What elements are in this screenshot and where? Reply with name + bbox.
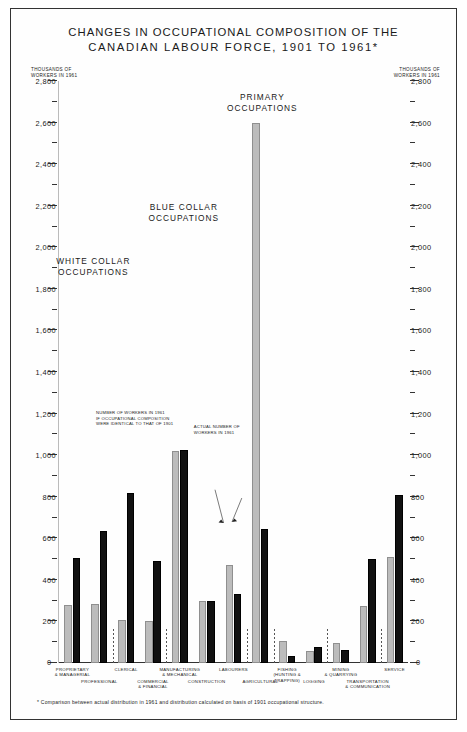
group-divider-after-9 xyxy=(327,629,328,663)
bar-estimated-4 xyxy=(172,451,180,663)
axis-tick-label-left-600: 600 xyxy=(16,534,56,543)
axis-tick-left-1100 xyxy=(52,433,57,434)
axis-tick-label-left-1000: 1,000 xyxy=(16,451,56,460)
category-label-10: MINING& QUARRYING xyxy=(315,667,367,678)
axis-tick-label-right-1200: 1,200 xyxy=(411,410,451,419)
bar-estimated-10 xyxy=(333,643,341,663)
axis-tick-label-right-1600: 1,600 xyxy=(411,326,451,335)
axis-tick-label-right-2800: 2,800 xyxy=(411,77,451,86)
bar-actual-3 xyxy=(153,561,161,663)
axis-tick-left-1700 xyxy=(52,309,57,310)
axis-tick-label-right-1400: 1,400 xyxy=(411,368,451,377)
bar-actual-0 xyxy=(73,558,81,663)
footnote: * Comparison between actual distribution… xyxy=(37,699,324,705)
axis-tick-label-left-2400: 2,400 xyxy=(16,160,56,169)
axis-tick-right-2300 xyxy=(410,184,415,185)
leader-line-estimated xyxy=(215,490,224,523)
chart-title-line-1: CHANGES IN OCCUPATIONAL COMPOSITION OF T… xyxy=(11,25,456,40)
leader-arrow-actual xyxy=(232,519,237,522)
axis-tick-right-2700 xyxy=(410,101,415,102)
axis-tick-left-900 xyxy=(52,475,57,476)
bar-estimated-8 xyxy=(279,641,287,663)
axis-tick-left-1500 xyxy=(52,350,57,351)
axis-tick-left-500 xyxy=(52,558,57,559)
axis-tick-right-1100 xyxy=(410,433,415,434)
axis-tick-label-right-800: 800 xyxy=(411,493,451,502)
bar-actual-11 xyxy=(368,559,376,663)
axis-tick-right-500 xyxy=(410,558,415,559)
chart-title: CHANGES IN OCCUPATIONAL COMPOSITION OF T… xyxy=(11,25,456,55)
section-label-blue-collar: BLUE COLLAR OCCUPATIONS xyxy=(141,202,227,224)
bar-actual-4 xyxy=(180,450,188,663)
section-label-white-collar-line-2: OCCUPATIONS xyxy=(50,267,136,278)
bar-estimated-3 xyxy=(145,621,153,663)
axis-tick-left-1300 xyxy=(52,392,57,393)
category-label-2: CLERICAL xyxy=(100,667,152,672)
bar-actual-8 xyxy=(288,656,296,663)
bar-estimated-11 xyxy=(360,606,368,663)
bar-estimated-0 xyxy=(64,605,72,663)
plot-area: 2002004004006006008008001,0001,0001,2001… xyxy=(59,81,408,663)
bar-estimated-1 xyxy=(91,604,99,663)
axis-tick-right-300 xyxy=(410,600,415,601)
bar-estimated-5 xyxy=(199,601,207,663)
axis-tick-right-100 xyxy=(410,641,415,642)
group-divider-after-3 xyxy=(166,629,167,663)
category-label-0: PROPRIETARY& MANAGERIAL xyxy=(46,667,98,678)
leader-line-actual xyxy=(232,498,242,522)
bar-actual-12 xyxy=(395,495,403,663)
callout-estimated-series: NUMBER OF WORKERS IN 1961 IF OCCUPATIONA… xyxy=(96,410,200,426)
axis-tick-left-700 xyxy=(52,517,57,518)
axis-tick-label-right-2400: 2,400 xyxy=(411,160,451,169)
axis-tick-right-1300 xyxy=(410,392,415,393)
axis-tick-label-right-2200: 2,200 xyxy=(411,202,451,211)
group-divider-after-11 xyxy=(381,629,382,663)
category-label-9: LOGGING xyxy=(288,679,340,684)
axis-tick-label-left-1600: 1,600 xyxy=(16,326,56,335)
callout-actual-series: ACTUAL NUMBER OF WORKERS IN 1961 xyxy=(194,424,268,435)
axis-tick-right-2100 xyxy=(410,226,415,227)
axis-tick-label-right-400: 400 xyxy=(411,576,451,585)
axis-tick-label-right-2600: 2,600 xyxy=(411,119,451,128)
bar-estimated-7 xyxy=(252,123,260,663)
axis-tick-label-left-800: 800 xyxy=(16,493,56,502)
axis-tick-right-1500 xyxy=(410,350,415,351)
section-label-primary-line-2: OCCUPATIONS xyxy=(225,103,299,114)
callout-estimated-line-3: WERE IDENTICAL TO THAT OF 1901 xyxy=(96,421,200,426)
category-label-12: SERVICE xyxy=(369,667,421,672)
axis-tick-label-left-2000: 2,000 xyxy=(16,243,56,252)
axis-tick-label-left-1400: 1,400 xyxy=(16,368,56,377)
axis-tick-left-2100 xyxy=(52,226,57,227)
bar-actual-5 xyxy=(207,601,215,663)
leader-arrow-estimated xyxy=(219,520,224,523)
axis-tick-label-left-400: 400 xyxy=(16,576,56,585)
bar-actual-7 xyxy=(261,529,269,663)
axis-tick-left-300 xyxy=(52,600,57,601)
axis-tick-right-1900 xyxy=(410,267,415,268)
axis-tick-left-100 xyxy=(52,641,57,642)
zero-label-left: 0 xyxy=(47,658,51,667)
axis-tick-right-1700 xyxy=(410,309,415,310)
section-label-white-collar-line-1: WHITE COLLAR xyxy=(50,256,136,267)
category-label-5: CONSTRUCTION xyxy=(181,679,233,684)
bar-estimated-9 xyxy=(306,651,314,663)
axis-tick-label-right-2000: 2,000 xyxy=(411,243,451,252)
bar-actual-2 xyxy=(127,493,135,663)
axis-tick-label-right-1800: 1,800 xyxy=(411,285,451,294)
category-label-1: PROFESSIONAL xyxy=(73,679,125,684)
chart-title-line-2: CANADIAN LABOUR FORCE, 1901 TO 1961* xyxy=(11,40,456,55)
axis-tick-left-2500 xyxy=(52,142,57,143)
section-label-blue-collar-line-2: OCCUPATIONS xyxy=(141,213,227,224)
axis-spine xyxy=(58,81,59,663)
axis-tick-right-700 xyxy=(410,517,415,518)
category-label-4: MANUFACTURING& MECHANICAL xyxy=(154,667,206,678)
axis-tick-label-left-1800: 1,800 xyxy=(16,285,56,294)
axis-tick-label-right-200: 200 xyxy=(411,617,451,626)
axis-tick-right-2500 xyxy=(410,142,415,143)
bar-actual-9 xyxy=(314,647,322,663)
axis-tick-left-2300 xyxy=(52,184,57,185)
axis-tick-label-left-2200: 2,200 xyxy=(16,202,56,211)
bar-actual-1 xyxy=(100,531,108,663)
bar-estimated-2 xyxy=(118,620,126,663)
group-divider-after-1 xyxy=(113,629,114,663)
